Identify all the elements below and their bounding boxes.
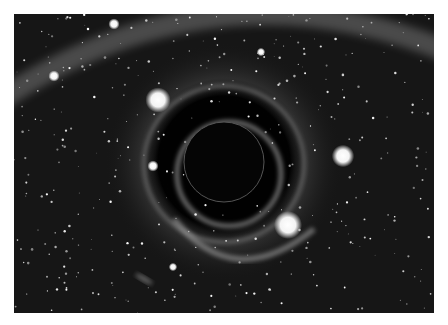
star-field [14, 14, 434, 313]
bright-star [332, 145, 354, 167]
bright-star [145, 87, 170, 112]
bright-star [274, 211, 302, 239]
black-hole-image [14, 14, 434, 313]
bright-star [108, 18, 119, 29]
bright-star [147, 160, 158, 171]
event-horizon [184, 122, 264, 202]
bright-star [257, 48, 265, 56]
bright-star [48, 70, 59, 81]
bright-star [169, 263, 177, 271]
